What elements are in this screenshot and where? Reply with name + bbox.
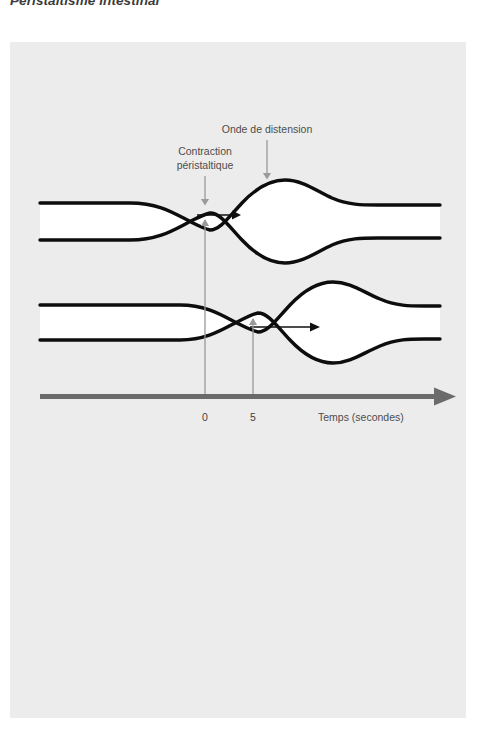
time-axis-bar (40, 394, 438, 399)
time-axis: 0 5 Temps (secondes) (40, 388, 456, 424)
time-tick-label-0: 0 (202, 411, 208, 423)
tube-time-5 (40, 282, 440, 363)
distension-label: Onde de distension (222, 123, 313, 135)
time-axis-label: Temps (secondes) (318, 411, 404, 423)
figure-panel: Contraction péristaltique Onde de disten… (10, 42, 466, 718)
contraction-label-line1: Contraction (178, 145, 232, 157)
contraction-arrow-head (201, 199, 209, 206)
page-title: Péristaltisme intestinal (10, 0, 159, 8)
distension-arrow-head (263, 173, 271, 180)
tube-time-5-lumen (40, 282, 440, 363)
tube-time-0-lumen (40, 180, 440, 263)
contraction-label-line2: péristaltique (177, 159, 234, 171)
tube-time-0 (40, 180, 440, 263)
annotation-distension: Onde de distension (222, 123, 313, 180)
peristalsis-diagram: Contraction péristaltique Onde de disten… (10, 42, 466, 718)
time-axis-arrowhead (434, 388, 456, 406)
time-tick-label-5: 5 (250, 411, 256, 423)
annotation-contraction: Contraction péristaltique (177, 145, 234, 206)
